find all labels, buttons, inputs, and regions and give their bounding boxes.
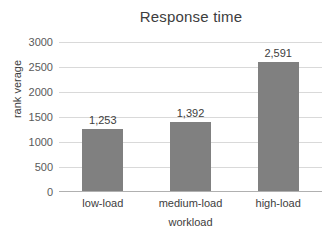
y-tick-500: 500 bbox=[0, 161, 53, 173]
bar-low-load[interactable] bbox=[82, 129, 123, 192]
bar-chart: Response time 3000 2500 2000 1500 1000 5… bbox=[0, 0, 332, 244]
bar-high-load[interactable] bbox=[258, 62, 299, 192]
bar-medium-load[interactable] bbox=[170, 122, 211, 192]
y-axis-title: rank verage bbox=[11, 34, 23, 144]
y-tick-3000: 3000 bbox=[0, 36, 53, 48]
y-tick-1500: 1500 bbox=[0, 111, 53, 123]
y-tick-1000: 1000 bbox=[0, 136, 53, 148]
y-axis-tick-labels: 3000 2500 2000 1500 1000 500 0 bbox=[0, 42, 53, 192]
y-tick-0: 0 bbox=[0, 186, 53, 198]
x-cat-medium-load: medium-load bbox=[147, 197, 235, 209]
chart-title: Response time bbox=[60, 8, 322, 25]
x-cat-low-load: low-load bbox=[59, 197, 147, 209]
x-axis-title: workload bbox=[59, 216, 322, 228]
x-axis-line bbox=[59, 191, 322, 192]
bar-slot-high-load: 2,591 bbox=[234, 42, 322, 192]
bar-value-label-high-load: 2,591 bbox=[234, 47, 322, 59]
x-cat-high-load: high-load bbox=[234, 197, 322, 209]
bar-value-label-medium-load: 1,392 bbox=[147, 107, 235, 119]
bar-value-label-low-load: 1,253 bbox=[59, 114, 147, 126]
y-tick-2500: 2500 bbox=[0, 61, 53, 73]
bar-slot-low-load: 1,253 bbox=[59, 42, 147, 192]
bar-slot-medium-load: 1,392 bbox=[147, 42, 235, 192]
plot-area: 1,253 1,392 2,591 bbox=[59, 42, 322, 192]
y-tick-2000: 2000 bbox=[0, 86, 53, 98]
x-axis-category-labels: low-load medium-load high-load bbox=[59, 197, 322, 209]
bar-series: 1,253 1,392 2,591 bbox=[59, 42, 322, 192]
